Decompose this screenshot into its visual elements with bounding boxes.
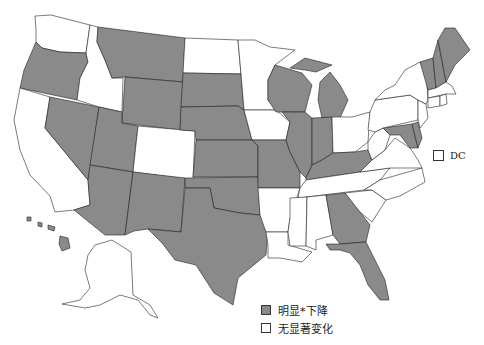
state-co: [133, 126, 195, 180]
state-fl: [326, 242, 389, 300]
dc-swatch: [433, 150, 444, 161]
state-nj: [418, 100, 428, 128]
legend-item-decline: 明显*下降: [261, 302, 328, 318]
state-ak: [62, 240, 158, 318]
state-nm: [125, 172, 185, 235]
legend-label-decline: 明显*下降: [278, 302, 328, 318]
state-oh: [332, 112, 370, 153]
us-choropleth-map: [0, 0, 484, 345]
legend-swatch-no-change: [261, 323, 271, 333]
legend-label-no-change: 无显著变化: [278, 320, 333, 336]
state-ri: [440, 94, 447, 106]
state-ks: [193, 140, 258, 177]
legend-swatch-decline: [261, 305, 271, 315]
legend-item-no-change: 无显著变化: [261, 320, 333, 336]
state-ct: [428, 96, 440, 108]
state-ms: [288, 197, 307, 246]
dc-legend: DC: [433, 150, 466, 161]
state-wy: [122, 77, 183, 130]
state-sd: [181, 73, 244, 110]
state-wi: [268, 65, 312, 112]
dc-label: DC: [450, 150, 466, 161]
state-ia: [244, 110, 290, 140]
state-wa: [35, 15, 90, 53]
state-nd: [183, 38, 241, 74]
state-mt: [97, 27, 185, 82]
state-hi: [27, 217, 70, 251]
